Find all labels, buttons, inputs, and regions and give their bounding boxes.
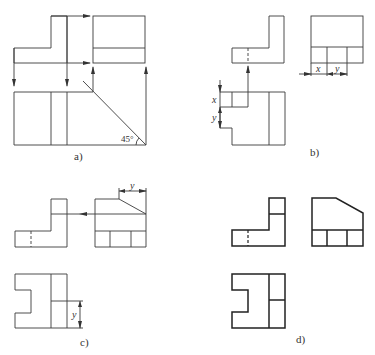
dim-label-y-side: y (71, 309, 77, 320)
side-view-a (93, 16, 145, 63)
dim-label-y-top: y (129, 180, 135, 191)
front-view-c (15, 199, 67, 247)
panel-b: x y x y b) (211, 16, 363, 159)
side-view-d (312, 198, 363, 246)
front-view-b (232, 16, 284, 63)
caption-a: a) (74, 150, 83, 163)
dim-label-y: y (211, 112, 217, 123)
side-view-c (95, 199, 146, 247)
top-view-d (232, 274, 285, 328)
angle-arc (136, 138, 139, 145)
three-view-projection-figure: 45° a) x y x y b) (0, 0, 375, 355)
front-view-a (14, 16, 67, 63)
side-view-b (311, 16, 363, 63)
panel-c: y y c) (15, 180, 146, 349)
caption-b: b) (310, 146, 320, 159)
angle-label: 45° (121, 134, 134, 144)
dim-label-y2: y (334, 63, 340, 74)
dim-label-x2: x (315, 63, 321, 74)
caption-c: c) (80, 336, 89, 349)
miter-line-45 (83, 81, 146, 145)
front-view-d (232, 198, 285, 246)
top-view-b (220, 92, 285, 145)
panel-a: 45° a) (14, 16, 146, 163)
panel-d: d) (232, 198, 363, 346)
dim-label-x: x (211, 94, 217, 105)
caption-d: d) (296, 333, 306, 346)
